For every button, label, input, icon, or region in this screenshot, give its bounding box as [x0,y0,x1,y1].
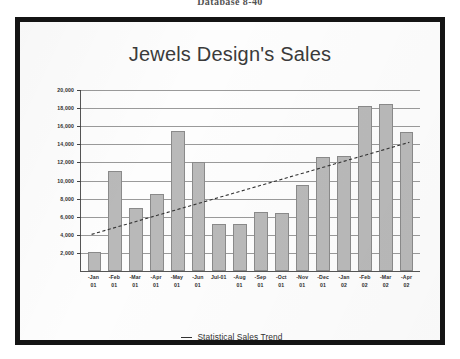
y-axis-tick-label: 8,000 [60,196,74,202]
bar-slot [146,90,167,271]
y-axis-tick-label: 18,000 [57,105,74,111]
x-axis-tick-label: -Sep01 [250,274,271,289]
bar-slot [167,90,188,271]
slide-frame: Jewels Design's Sales 20,00018,00016,000… [15,17,445,345]
bar-slot [105,90,126,271]
x-axis-tick-label: -Nov01 [292,274,313,289]
bar-slot [209,90,230,271]
y-axis-tick-label: 2,000 [60,250,74,256]
y-axis-tick-label: 4,000 [60,232,74,238]
page-caption: Database 8-40 [0,0,460,5]
bar[interactable] [337,156,351,271]
bar[interactable] [88,252,102,271]
bar-slot [334,90,355,271]
x-axis-tick-label: -Jan02 [334,274,355,289]
x-axis-tick-label: -Feb02 [354,274,375,289]
bar-slot [292,90,313,271]
x-axis-tick-label: -Oct01 [271,274,292,289]
x-axis-tick-label: -Jan01 [83,274,104,289]
bar[interactable] [275,213,289,271]
y-axis-tick-label: 16,000 [57,123,74,129]
bar[interactable] [358,106,372,271]
bar[interactable] [379,104,393,271]
x-axis-tick-label: -Dec01 [313,274,334,289]
x-axis-tick-label: -Aug01 [229,274,250,289]
legend-dash-icon [181,337,192,338]
bar-slot [313,90,334,271]
plot-area [80,90,420,272]
chart-plot-wrapper: 20,00018,00016,00014,00012,00010,0008,00… [44,90,420,305]
y-axis-tick-label: 20,000 [57,87,74,93]
bar-slot [126,90,147,271]
bar-slot [271,90,292,271]
bar[interactable] [254,212,268,271]
y-axis-tick-label: 14,000 [57,141,74,147]
bar[interactable] [150,194,164,271]
bar[interactable] [212,224,226,271]
slide-canvas: Jewels Design's Sales 20,00018,00016,000… [20,22,440,340]
bar[interactable] [108,171,122,271]
bar[interactable] [316,157,330,271]
bar[interactable] [296,185,310,271]
bar-slot [230,90,251,271]
bar-slot [396,90,417,271]
chart-title: Jewels Design's Sales [20,43,440,66]
bar-slot [355,90,376,271]
x-axis-tick-label: -May01 [167,274,188,289]
bar-series [81,90,420,271]
y-axis-tick-label: 6,000 [60,214,74,220]
x-axis-tick-label: -Apr02 [396,274,417,289]
x-axis-tick-label: Jul-01 [208,274,229,289]
x-axis-tick-label: -Feb01 [104,274,125,289]
x-axis-tick-label: -Mar01 [125,274,146,289]
bar[interactable] [400,132,414,271]
bar[interactable] [192,162,206,271]
y-axis-tick-labels: 20,00018,00016,00014,00012,00010,0008,00… [44,90,77,271]
x-axis-tick-label: -Mar02 [375,274,396,289]
y-axis-tick-label: 10,000 [57,178,74,184]
bar-slot [375,90,396,271]
bar[interactable] [129,208,143,271]
bar-slot [188,90,209,271]
bar-slot [84,90,105,271]
legend-item-label: Statistical Sales Trend [197,332,282,342]
x-axis-tick-labels: -Jan01-Feb01-Mar01-Apr01-May01-Jun01Jul-… [80,274,420,289]
x-axis-tick-label: -Apr01 [146,274,167,289]
chart-legend: Statistical Sales Trend [44,332,420,342]
x-axis-tick-label: -Jun01 [187,274,208,289]
bar[interactable] [171,131,185,271]
bar-slot [251,90,272,271]
bar[interactable] [233,224,247,271]
y-axis-tick-label: 12,000 [57,159,74,165]
